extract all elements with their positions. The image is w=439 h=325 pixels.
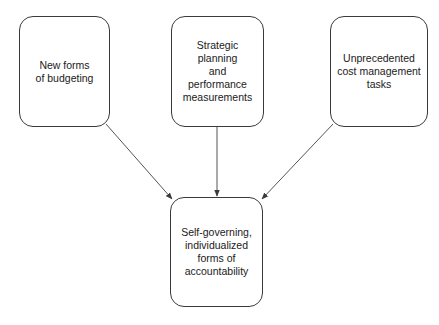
node-label: Unprecedented cost management tasks bbox=[337, 52, 420, 91]
node-label: New forms of budgeting bbox=[36, 59, 94, 85]
node-label: Strategic planning and performance measu… bbox=[176, 39, 259, 104]
edge-n1-to-n4 bbox=[106, 124, 172, 199]
node-unprecedented-cost-management: Unprecedented cost management tasks bbox=[330, 16, 428, 127]
node-strategic-planning: Strategic planning and performance measu… bbox=[171, 16, 264, 127]
node-self-governing-accountability: Self-governing, individualized forms of … bbox=[170, 197, 263, 307]
node-label: Self-governing, individualized forms of … bbox=[181, 226, 252, 278]
edge-n3-to-n4 bbox=[262, 124, 333, 199]
flow-diagram: New forms of budgeting Strategic plannin… bbox=[0, 0, 439, 325]
node-new-forms-of-budgeting: New forms of budgeting bbox=[19, 16, 110, 127]
